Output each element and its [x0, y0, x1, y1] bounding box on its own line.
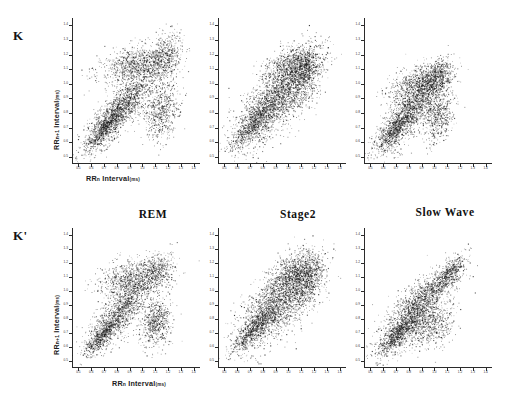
- x-axis-tick-label: 0.6: [235, 167, 239, 170]
- y-axis-tick-label: 1.0: [64, 289, 68, 292]
- x-axis-tick-label: 0.7: [102, 167, 106, 170]
- scatter-points: [364, 18, 492, 164]
- x-axis-tick-label: 0.9: [419, 371, 423, 374]
- y-axis-tick-label: 1.0: [64, 82, 68, 85]
- y-axis-tick-label: 0.7: [356, 331, 360, 334]
- scatter-points: [364, 228, 492, 368]
- y-axis-tick-label: 1.4: [356, 24, 360, 27]
- y-axis-tick-label: 1.0: [210, 82, 214, 85]
- x-axis-tick-label: 0.9: [273, 371, 277, 374]
- x-axis-tick-label: 1.3: [179, 371, 183, 374]
- y-axis-tick-label: 1.3: [356, 247, 360, 250]
- x-axis-tick-label: 1.1: [445, 371, 449, 374]
- y-axis-tick-label: 1.4: [210, 24, 214, 27]
- x-axis-tick-label: 0.8: [261, 167, 265, 170]
- y-axis-tick-label: 0.7: [64, 126, 68, 129]
- y-axis-tick-label: 1.1: [210, 67, 214, 70]
- y-axis-tick-label: 1.3: [210, 247, 214, 250]
- y-axis-title-unit-top: (ms): [55, 90, 60, 101]
- scatter-panel-k-prime-stage2: 0.50.60.70.80.91.01.11.21.31.40.50.60.70…: [218, 228, 346, 368]
- y-axis-tick-label: 0.6: [356, 140, 360, 143]
- x-axis-title-bottom: RRn Interval(ms): [112, 379, 166, 388]
- y-axis-title-rest-bottom: Interval: [52, 305, 61, 334]
- x-axis-tick-label: 1.2: [312, 167, 316, 170]
- x-axis-title-rest-top: Interval: [100, 174, 129, 183]
- x-axis-tick-label: 0.6: [381, 371, 385, 374]
- y-axis-tick-label: 1.0: [356, 289, 360, 292]
- y-axis-tick-label: 0.8: [210, 317, 214, 320]
- x-axis-tick-label: 0.6: [89, 167, 93, 170]
- x-axis-tick-label: 0.5: [368, 167, 372, 170]
- x-axis-tick-label: 1.4: [191, 167, 195, 170]
- x-axis-tick-label: 0.9: [127, 371, 131, 374]
- y-axis-tick-label: 0.7: [210, 331, 214, 334]
- y-axis-tick-label: 1.2: [64, 261, 68, 264]
- y-axis-title-top: RRn+1 Interval(ms): [52, 90, 61, 150]
- x-axis-tick-label: 1.3: [325, 167, 329, 170]
- y-axis-tick-label: 0.7: [64, 331, 68, 334]
- x-axis-tick-label: 1.0: [140, 167, 144, 170]
- x-axis-tick-label: 1.1: [153, 167, 157, 170]
- y-axis-tick-label: 0.8: [64, 317, 68, 320]
- y-axis-title-sub-bottom: n+1: [54, 335, 60, 344]
- y-axis-title-rest-top: Interval: [52, 100, 61, 129]
- y-axis-tick-label: 0.6: [64, 345, 68, 348]
- column-header-rem: REM: [93, 208, 213, 220]
- y-axis-tick-label: 0.7: [210, 126, 214, 129]
- x-axis-tick-label: 1.1: [299, 167, 303, 170]
- x-axis-tick-label: 0.7: [394, 167, 398, 170]
- y-axis-tick-label: 1.4: [64, 24, 68, 27]
- x-axis-tick-label: 1.1: [445, 167, 449, 170]
- scatter-points: [218, 18, 346, 164]
- y-axis-title-main-top: RR: [52, 139, 61, 150]
- y-axis-title-unit-bottom: (ms): [55, 295, 60, 306]
- scatter-panel-k-rem: 0.50.60.70.80.91.01.11.21.31.40.50.60.70…: [72, 18, 200, 164]
- x-axis-tick-label: 0.5: [76, 371, 80, 374]
- y-axis-tick-label: 0.5: [356, 155, 360, 158]
- y-axis-tick-label: 1.2: [64, 53, 68, 56]
- y-axis-tick-label: 1.0: [356, 82, 360, 85]
- x-axis-tick-label: 0.7: [102, 371, 106, 374]
- column-header-stage2: Stage2: [238, 208, 358, 220]
- scatter-panel-k-prime-rem: 0.50.60.70.80.91.01.11.21.31.40.50.60.70…: [72, 228, 200, 368]
- x-axis-tick-label: 1.1: [299, 371, 303, 374]
- x-axis-tick-label: 0.8: [407, 167, 411, 170]
- y-axis-tick-label: 0.8: [64, 111, 68, 114]
- y-axis-title-bottom: RRn+1 Interval(ms): [52, 295, 61, 355]
- x-axis-tick-label: 1.3: [179, 167, 183, 170]
- y-axis-tick-label: 1.4: [64, 233, 68, 236]
- x-axis-tick-label: 0.5: [368, 371, 372, 374]
- y-axis-tick-label: 0.9: [210, 97, 214, 100]
- x-axis-title-top: RRn Interval(ms): [86, 174, 140, 183]
- y-axis-tick-label: 0.5: [64, 155, 68, 158]
- row-label-k-prime: K': [13, 228, 28, 244]
- figure-root: K K' REM Stage2 Slow Wave 0.50.60.70.80.…: [0, 0, 530, 405]
- y-axis-tick-label: 0.6: [64, 140, 68, 143]
- x-axis-tick-label: 1.3: [471, 371, 475, 374]
- x-axis-title-rest-bottom: Interval: [126, 379, 155, 388]
- x-axis-tick-label: 1.4: [483, 371, 487, 374]
- x-axis-tick-label: 1.0: [432, 167, 436, 170]
- x-axis-tick-label: 1.2: [166, 167, 170, 170]
- y-axis-tick-label: 0.5: [210, 155, 214, 158]
- y-axis-tick-label: 0.9: [356, 97, 360, 100]
- x-axis-tick-label: 0.6: [235, 371, 239, 374]
- y-axis-tick-label: 1.1: [64, 67, 68, 70]
- y-axis-tick-label: 1.3: [64, 38, 68, 41]
- y-axis-tick-label: 0.5: [64, 359, 68, 362]
- x-axis-tick-label: 1.2: [312, 371, 316, 374]
- scatter-panel-k-prime-slow-wave: 0.50.60.70.80.91.01.11.21.31.40.50.60.70…: [364, 228, 492, 368]
- y-axis-tick-label: 0.6: [356, 345, 360, 348]
- x-axis-tick-label: 1.4: [337, 371, 341, 374]
- x-axis-tick-label: 0.7: [394, 371, 398, 374]
- x-axis-tick-label: 0.8: [115, 371, 119, 374]
- y-axis-tick-label: 1.1: [210, 275, 214, 278]
- y-axis-tick-label: 0.8: [356, 111, 360, 114]
- y-axis-tick-label: 0.9: [210, 303, 214, 306]
- x-axis-tick-label: 1.4: [483, 167, 487, 170]
- x-axis-title-main-top: RR: [86, 174, 97, 183]
- y-axis-tick-label: 1.1: [356, 67, 360, 70]
- x-axis-tick-label: 1.4: [337, 167, 341, 170]
- x-axis-tick-label: 0.5: [222, 371, 226, 374]
- y-axis-tick-label: 1.3: [210, 38, 214, 41]
